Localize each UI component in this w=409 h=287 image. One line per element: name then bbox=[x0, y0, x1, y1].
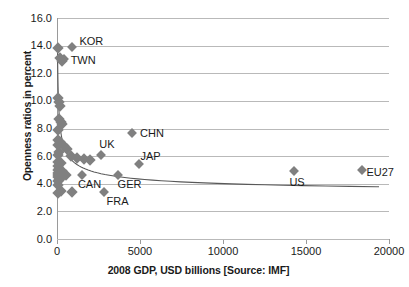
y-tick-label: 0.0 bbox=[8, 234, 52, 245]
point-label-uk: UK bbox=[99, 139, 114, 150]
x-tick-label: 10000 bbox=[188, 246, 258, 257]
point-label-eu27: EU27 bbox=[366, 167, 394, 178]
x-tick-label: 15000 bbox=[271, 246, 341, 257]
y-tick-label: 4.0 bbox=[8, 178, 52, 189]
plot-area: KORTWNCHNUKJAPCANGERFRAUSEU27 bbox=[57, 18, 389, 239]
y-tick-label: 8.0 bbox=[8, 123, 52, 134]
y-tick-label: 2.0 bbox=[8, 206, 52, 217]
point-label-twn: TWN bbox=[71, 55, 96, 66]
y-tick-label: 10.0 bbox=[8, 95, 52, 106]
point-label-chn: CHN bbox=[140, 128, 164, 139]
y-tick-label: 12.0 bbox=[8, 68, 52, 79]
point-label-can: CAN bbox=[78, 179, 101, 190]
point-label-ger: GER bbox=[118, 179, 142, 190]
y-tick-label: 6.0 bbox=[8, 151, 52, 162]
gridline bbox=[57, 239, 389, 240]
y-tick-label: 16.0 bbox=[8, 13, 52, 24]
x-tick-label: 20000 bbox=[354, 246, 409, 257]
x-axis-title: 2008 GDP, USD billions [Source: IMF] bbox=[0, 264, 397, 276]
point-label-us: US bbox=[289, 177, 304, 188]
point-label-kor: KOR bbox=[79, 36, 103, 47]
x-tick-label: 0 bbox=[22, 246, 92, 257]
point-label-jap: JAP bbox=[141, 151, 161, 162]
x-tick-label: 5000 bbox=[105, 246, 175, 257]
y-tick-label: 14.0 bbox=[8, 40, 52, 51]
point-label-fra: FRA bbox=[106, 196, 128, 207]
x-tick-mark bbox=[389, 239, 390, 244]
